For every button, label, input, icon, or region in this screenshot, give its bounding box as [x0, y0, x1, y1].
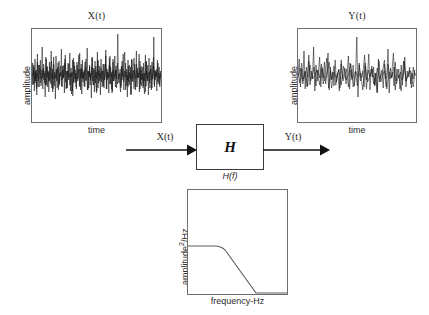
output-signal-trace [298, 29, 416, 122]
transfer-function-curve [188, 190, 287, 294]
system-block: H [196, 124, 264, 170]
transfer-plot-xlabel: frequency-Hz [177, 296, 298, 306]
transfer-ylabel-exponent: 2 [178, 242, 185, 246]
input-plot-title: X(t) [31, 10, 162, 21]
system-block-label: H [224, 139, 236, 156]
output-arrow [263, 140, 331, 160]
input-plot-frame [31, 28, 162, 123]
output-plot-title: Y(t) [297, 10, 417, 21]
input-arrow [126, 140, 198, 160]
output-plot-frame [297, 28, 417, 123]
system-transfer-label: H(f) [196, 171, 264, 181]
figure-canvas: X(t) amplitude time Y(t) amplitude time … [0, 0, 429, 315]
transfer-plot-frame [187, 189, 288, 295]
input-signal-trace [32, 29, 161, 122]
